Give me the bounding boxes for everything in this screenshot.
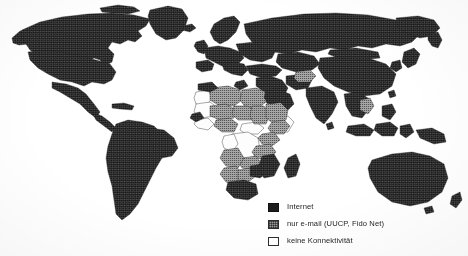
legend-label-no-connectivity: keine Konnektivität <box>287 236 353 246</box>
region-libya <box>240 88 266 108</box>
world-connectivity-map: Internet nur e-mail (UUCP, Fido Net) kei… <box>0 0 468 256</box>
legend-swatch-internet-icon <box>268 203 279 212</box>
legend-label-email-only: nur e-mail (UUCP, Fido Net) <box>287 219 384 229</box>
legend-item-no-connectivity: keine Konnektivität <box>268 233 418 249</box>
map-legend: Internet nur e-mail (UUCP, Fido Net) kei… <box>268 199 418 250</box>
legend-swatch-no-connectivity-icon <box>268 237 279 246</box>
legend-swatch-email-only-icon <box>268 220 279 229</box>
legend-item-email-only: nur e-mail (UUCP, Fido Net) <box>268 216 418 232</box>
legend-item-internet: Internet <box>268 199 418 215</box>
legend-label-internet: Internet <box>287 202 314 212</box>
